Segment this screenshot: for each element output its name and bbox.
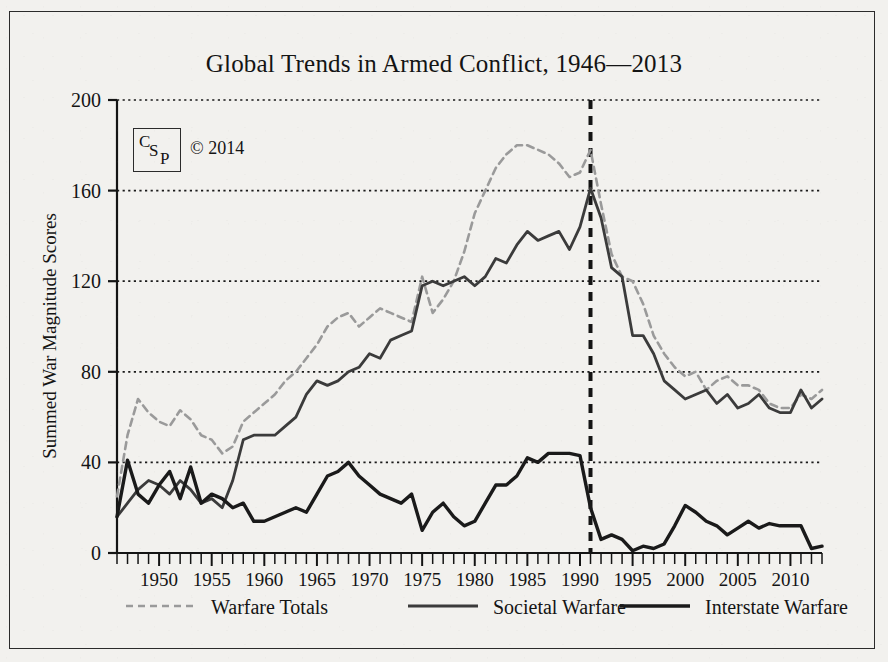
svg-text:1975: 1975	[403, 569, 441, 590]
chart-plot-area: 04080120160200 1950195519601965197019751…	[0, 0, 888, 662]
svg-text:0: 0	[91, 542, 101, 564]
x-tick-labels: 1950195519601965197019751980198519901995…	[140, 569, 809, 590]
svg-text:1965: 1965	[298, 569, 336, 590]
svg-text:160: 160	[71, 180, 101, 202]
svg-text:200: 200	[71, 89, 101, 111]
svg-text:120: 120	[71, 270, 101, 292]
axis-lines	[117, 100, 822, 553]
chart-legend: Warfare TotalsSocietal WarfareInterstate…	[126, 596, 848, 618]
y-tick-labels: 04080120160200	[71, 89, 101, 564]
svg-text:1970: 1970	[351, 569, 389, 590]
svg-text:1960: 1960	[245, 569, 283, 590]
x-minor-ticks	[117, 553, 822, 566]
svg-text:2000: 2000	[666, 569, 704, 590]
data-series-lines	[117, 145, 822, 550]
svg-text:Warfare Totals: Warfare Totals	[211, 596, 328, 618]
svg-text:2005: 2005	[719, 569, 757, 590]
figure-canvas: Global Trends in Armed Conflict, 1946—20…	[0, 0, 888, 662]
svg-text:1990: 1990	[561, 569, 599, 590]
y-tick-marks	[108, 100, 117, 553]
svg-text:1980: 1980	[456, 569, 494, 590]
svg-text:Interstate Warfare: Interstate Warfare	[705, 596, 848, 618]
svg-text:1955: 1955	[193, 569, 231, 590]
svg-text:1995: 1995	[614, 569, 652, 590]
svg-text:Societal Warfare: Societal Warfare	[493, 596, 626, 618]
svg-text:40: 40	[81, 451, 101, 473]
svg-text:1985: 1985	[508, 569, 546, 590]
svg-text:80: 80	[81, 361, 101, 383]
svg-text:2010: 2010	[771, 569, 809, 590]
svg-text:1950: 1950	[140, 569, 178, 590]
